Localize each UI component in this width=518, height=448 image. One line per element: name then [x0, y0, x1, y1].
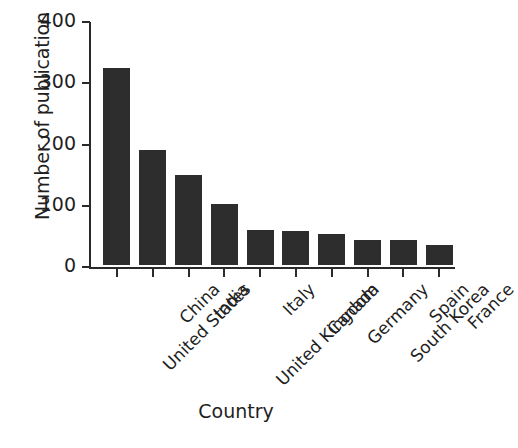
y-tick-label-100: 100: [26, 193, 76, 215]
x-tick-7: [367, 268, 369, 277]
x-tick-3: [223, 268, 225, 277]
bar: [247, 230, 274, 265]
y-tick-0: [82, 266, 90, 268]
x-tick-5: [295, 268, 297, 277]
bar: [318, 234, 345, 265]
bar: [103, 68, 130, 265]
x-tick-4: [259, 268, 261, 277]
bar: [354, 240, 381, 265]
y-tick-label-300: 300: [26, 70, 76, 92]
x-tick-0: [116, 268, 118, 277]
bar: [175, 175, 202, 265]
y-tick-label-400: 400: [26, 9, 76, 31]
bar: [390, 240, 417, 265]
y-tick-label-200: 200: [26, 132, 76, 154]
y-tick-300: [82, 82, 90, 84]
y-tick-400: [82, 21, 90, 23]
x-axis-title: Country: [0, 400, 472, 422]
x-tick-9: [438, 268, 440, 277]
bar: [139, 150, 166, 265]
x-tick-6: [331, 268, 333, 277]
y-tick-100: [82, 205, 90, 207]
x-tick-2: [188, 268, 190, 277]
x-tick-1: [152, 268, 154, 277]
y-tick-200: [82, 144, 90, 146]
bar: [426, 245, 453, 265]
x-tick-8: [402, 268, 404, 277]
x-axis-spine: [89, 267, 455, 269]
bar: [282, 231, 309, 265]
x-tick-label-4: Italy: [279, 279, 319, 319]
bar: [211, 204, 238, 265]
y-tick-label-0: 0: [26, 254, 76, 276]
plot-area: 0100200300400: [89, 22, 455, 267]
